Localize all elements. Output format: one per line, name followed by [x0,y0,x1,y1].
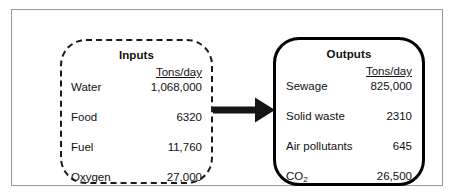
table-row: Water 1,068,000 [71,81,202,111]
row-label: Oxygen [71,171,111,183]
table-row: Air pollutants 645 [286,140,412,170]
row-label: Air pollutants [286,140,352,152]
row-value: 11,760 [168,141,202,153]
table-row: Sewage 825,000 [286,80,412,110]
right-arrow-icon [211,96,277,124]
table-row: Oxygen 27,000 [71,171,202,196]
outputs-rows: Sewage 825,000 Solid waste 2310 Air poll… [286,80,412,196]
inputs-panel: Inputs Tons/day Water 1,068,000 Food 632… [60,39,213,184]
table-row: Food 6320 [71,111,202,141]
row-value: 27,000 [167,171,202,183]
row-label: Fuel [71,141,93,153]
row-value: 26,500 [377,170,412,182]
row-label-co2: CO2 [286,170,308,182]
row-label: Solid waste [286,110,345,122]
table-row: Fuel 11,760 [71,141,202,171]
figure-frame: Inputs Tons/day Water 1,068,000 Food 632… [11,9,443,186]
row-value: 6320 [176,111,202,123]
co2-main: CO [286,170,303,182]
co2-subscript: 2 [303,175,307,184]
row-label: Food [71,111,97,123]
diagram-canvas: Inputs Tons/day Water 1,068,000 Food 632… [0,0,455,196]
inputs-unit-header: Tons/day [156,66,202,78]
outputs-panel: Outputs Tons/day Sewage 825,000 Solid wa… [273,37,425,186]
inputs-title: Inputs [62,49,211,61]
row-label: Water [71,81,101,93]
inputs-rows: Water 1,068,000 Food 6320 Fuel 11,760 Ox… [71,81,202,196]
row-value: 2310 [386,110,412,122]
table-row: Solid waste 2310 [286,110,412,140]
row-label: Sewage [286,80,328,92]
outputs-title: Outputs [276,48,422,60]
table-row: CO2 26,500 [286,170,412,196]
row-value: 1,068,000 [151,81,202,93]
row-value: 825,000 [370,80,412,92]
row-value: 645 [393,140,412,152]
outputs-unit-header: Tons/day [366,65,412,77]
